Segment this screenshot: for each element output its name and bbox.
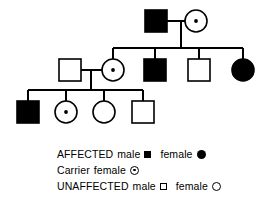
legend-carrier-label: Carrier (57, 165, 90, 176)
individual-II-3-affected-male[interactable] (144, 59, 166, 81)
individual-I-2-carrier-female[interactable] (185, 10, 207, 32)
individual-III-3-unaffected-female[interactable] (93, 101, 115, 123)
legend-affected-female-text: female (160, 149, 192, 160)
open-circle-icon (212, 182, 221, 191)
individual-III-4-unaffected-male[interactable] (132, 101, 154, 123)
legend-unaffected-female-text: female (176, 181, 208, 192)
carrier-dot (64, 110, 68, 114)
legend-affected-label: AFFECTED (57, 149, 113, 160)
individual-III-1-affected-male[interactable] (17, 101, 39, 123)
filled-circle-icon (197, 150, 206, 159)
individual-II-1-unaffected-male[interactable] (59, 59, 81, 81)
legend-carrier-female-text: female (94, 165, 126, 176)
legend: AFFECTED male female Carrier female UNAF… (57, 146, 262, 194)
legend-row-unaffected: UNAFFECTED male female (57, 178, 262, 194)
filled-square-icon (144, 151, 151, 158)
legend-affected-male-text: male (117, 149, 140, 160)
legend-unaffected-male-text: male (133, 181, 156, 192)
legend-row-affected: AFFECTED male female (57, 146, 262, 162)
carrier-dot (194, 19, 198, 23)
individual-I-1-affected-male[interactable] (145, 10, 167, 32)
legend-row-carrier: Carrier female (57, 162, 262, 178)
individual-II-4-unaffected-male[interactable] (188, 59, 210, 81)
individual-II-5-affected-female[interactable] (232, 59, 254, 81)
open-square-icon (160, 183, 167, 190)
pedigree-chart: AFFECTED male female Carrier female UNAF… (0, 0, 269, 212)
individual-III-2-carrier-female[interactable] (55, 101, 77, 123)
legend-unaffected-label: UNAFFECTED (57, 181, 129, 192)
carrier-circle-icon (130, 166, 139, 175)
generation-III (17, 101, 154, 123)
individual-II-2-carrier-female[interactable] (102, 59, 124, 81)
carrier-dot (111, 68, 115, 72)
